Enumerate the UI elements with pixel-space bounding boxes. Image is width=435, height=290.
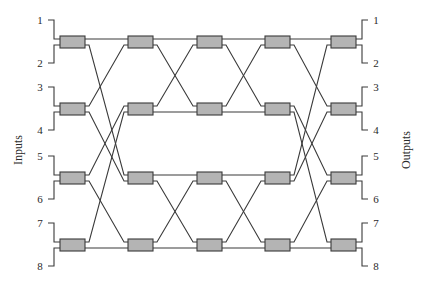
switch-s5-r1 xyxy=(331,36,356,48)
input-label-8: 8 xyxy=(37,260,43,272)
switch-s5-r2 xyxy=(331,103,356,115)
inputs-label: Inputs xyxy=(11,135,25,165)
output-bracket-upper xyxy=(356,223,368,242)
output-label-4: 4 xyxy=(373,124,379,136)
switch-s5-r4 xyxy=(331,239,356,251)
wire xyxy=(222,181,265,242)
switch-s4-r3 xyxy=(265,172,290,184)
switch-s2-r4 xyxy=(128,239,153,251)
switch-s1-r2 xyxy=(60,103,85,115)
input-bracket-upper xyxy=(48,20,60,39)
switch-s4-r2 xyxy=(265,103,290,115)
switch-s4-r1 xyxy=(265,36,290,48)
output-bracket-lower xyxy=(356,112,368,130)
input-label-1: 1 xyxy=(37,14,43,26)
outputs-label: Outputs xyxy=(399,131,413,169)
switch-s3-r3 xyxy=(197,172,222,184)
output-label-5: 5 xyxy=(373,150,379,162)
input-label-6: 6 xyxy=(37,193,43,205)
output-label-8: 8 xyxy=(373,260,379,272)
wire xyxy=(153,181,197,242)
switch-s5-r3 xyxy=(331,172,356,184)
output-bracket-lower xyxy=(356,248,368,266)
interstage-wires xyxy=(85,39,331,248)
switch-s2-r1 xyxy=(128,36,153,48)
output-label-2: 2 xyxy=(373,57,379,69)
input-label-3: 3 xyxy=(37,81,43,93)
output-label-7: 7 xyxy=(373,217,379,229)
input-label-4: 4 xyxy=(37,124,43,136)
output-bracket-upper xyxy=(356,20,368,39)
benes-network-diagram: 1212343456567878 Inputs Outputs xyxy=(0,0,435,290)
switch-s1-r1 xyxy=(60,36,85,48)
input-label-2: 2 xyxy=(37,57,43,69)
output-label-1: 1 xyxy=(373,14,379,26)
output-bracket-lower xyxy=(356,45,368,63)
input-bracket-lower xyxy=(48,181,60,199)
input-label-5: 5 xyxy=(37,150,43,162)
input-bracket-upper xyxy=(48,87,60,106)
output-bracket-upper xyxy=(356,87,368,106)
input-bracket-lower xyxy=(48,248,60,266)
switch-s2-r2 xyxy=(128,103,153,115)
switch-s1-r3 xyxy=(60,172,85,184)
switch-s3-r2 xyxy=(197,103,222,115)
output-bracket-upper xyxy=(356,156,368,175)
input-bracket-lower xyxy=(48,112,60,130)
input-bracket-upper xyxy=(48,223,60,242)
wire xyxy=(153,45,197,106)
input-bracket-lower xyxy=(48,45,60,63)
switch-s3-r4 xyxy=(197,239,222,251)
input-bracket-upper xyxy=(48,156,60,175)
switch-s1-r4 xyxy=(60,239,85,251)
output-bracket-lower xyxy=(356,181,368,199)
output-label-6: 6 xyxy=(373,193,379,205)
port-labels: 1212343456567878 xyxy=(37,14,379,272)
output-label-3: 3 xyxy=(373,81,379,93)
port-brackets xyxy=(48,20,368,266)
wire xyxy=(222,45,265,106)
switch-s4-r4 xyxy=(265,239,290,251)
switch-s2-r3 xyxy=(128,172,153,184)
input-label-7: 7 xyxy=(37,217,43,229)
switch-s3-r1 xyxy=(197,36,222,48)
